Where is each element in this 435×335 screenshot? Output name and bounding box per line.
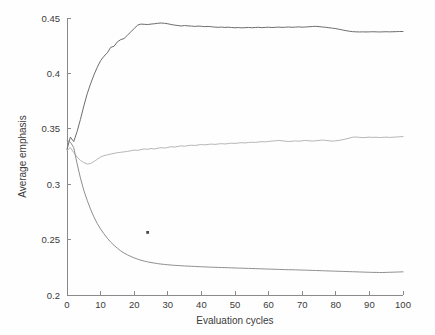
y-tick-label: 0.3 (47, 179, 60, 190)
scan-speck (146, 231, 149, 234)
axis-spines (67, 18, 403, 295)
x-tick-label: 50 (230, 299, 241, 310)
series-line-lower (67, 140, 403, 272)
axis-labels-group: 0.20.250.30.350.40.450102030405060708090… (17, 13, 411, 327)
x-tick-label: 0 (64, 299, 69, 310)
x-tick-label: 90 (364, 299, 375, 310)
axes (67, 18, 403, 295)
y-tick-label: 0.35 (42, 123, 61, 134)
y-tick-label: 0.25 (42, 234, 61, 245)
y-tick-label: 0.4 (47, 68, 60, 79)
x-axis-title: Evaluation cycles (196, 315, 273, 326)
x-tick-label: 80 (331, 299, 342, 310)
x-tick-label: 40 (196, 299, 207, 310)
chart-figure: 0.20.250.30.350.40.450102030405060708090… (0, 0, 435, 335)
x-tick-label: 10 (95, 299, 106, 310)
data-series-group (67, 23, 403, 273)
y-axis-title: Average emphasis (17, 115, 28, 198)
x-tick-label: 70 (297, 299, 308, 310)
series-line-middle (67, 137, 403, 164)
x-tick-label: 100 (395, 299, 411, 310)
annotations-group (146, 231, 149, 234)
line-chart: 0.20.250.30.350.40.450102030405060708090… (0, 0, 435, 335)
x-tick-label: 30 (163, 299, 174, 310)
series-line-upper (67, 23, 403, 149)
x-tick-label: 60 (263, 299, 274, 310)
x-tick-label: 20 (129, 299, 140, 310)
y-tick-label: 0.45 (42, 13, 61, 24)
y-tick-label: 0.2 (47, 290, 60, 301)
